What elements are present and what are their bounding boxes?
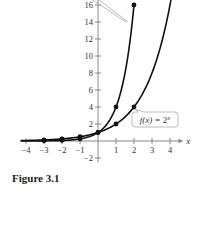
x-tick-label: 4 xyxy=(168,145,173,155)
y-tick-label: 16 xyxy=(85,0,94,10)
data-point xyxy=(42,138,47,143)
x-tick-label: −2 xyxy=(57,145,66,155)
y-tick-label: 4 xyxy=(89,102,94,112)
x-tick-label: 2 xyxy=(132,145,136,155)
axes: x−4−3−2−11234−2246810121416 xyxy=(21,0,191,163)
exponential-chart: x−4−3−2−11234−2246810121416 f(x) = 2x xyxy=(0,0,207,165)
data-point xyxy=(114,105,119,110)
x-axis-label: x xyxy=(185,136,190,146)
x-tick-label: 1 xyxy=(114,145,118,155)
data-point xyxy=(78,136,83,141)
data-point xyxy=(60,138,65,143)
y-tick-label: 8 xyxy=(89,68,93,78)
data-point xyxy=(132,3,137,8)
x-tick-label: −4 xyxy=(21,145,31,155)
curve-4-pow-x xyxy=(21,5,134,141)
y-tick-label: 2 xyxy=(89,119,93,129)
y-tick-label: 6 xyxy=(89,85,93,95)
top-callout-line xyxy=(75,0,128,22)
y-tick-label: 12 xyxy=(85,34,94,44)
y-tick-label: 14 xyxy=(85,17,94,27)
y-tick-label: 10 xyxy=(85,51,94,61)
function-label: f(x) = 2x xyxy=(140,114,171,126)
y-tick-label: −2 xyxy=(84,153,93,163)
x-tick-label: 3 xyxy=(150,145,154,155)
x-tick-label: −3 xyxy=(39,145,48,155)
figure-caption: Figure 3.1 xyxy=(12,172,59,184)
x-axis-arrow-icon xyxy=(179,139,184,143)
data-point xyxy=(96,130,101,135)
data-point xyxy=(132,105,137,110)
data-point xyxy=(114,122,119,127)
